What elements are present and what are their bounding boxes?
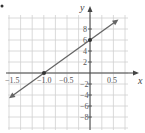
y-tick-label: −6 xyxy=(80,102,89,111)
axes xyxy=(6,6,139,130)
bullet-dot xyxy=(1,5,4,8)
y-tick-label: 8 xyxy=(83,25,87,34)
point-y-intercept xyxy=(88,38,92,42)
y-tick-label: 2 xyxy=(83,58,87,67)
y-tick-label: −2 xyxy=(80,80,89,89)
y-tick-label: −4 xyxy=(80,91,89,100)
y-axis-arrow-icon xyxy=(88,6,93,12)
y-axis-label: y xyxy=(79,2,85,13)
x-tick-label: −1.0 xyxy=(37,76,52,85)
x-tick-label: −0.5 xyxy=(59,76,74,85)
y-tick-label: −8 xyxy=(80,113,89,122)
point-x-intercept xyxy=(42,71,46,75)
line-arrow-end-icon xyxy=(112,20,119,26)
x-tick-label: 0.5 xyxy=(107,76,117,85)
x-axis-label: x xyxy=(137,75,143,86)
y-tick-label: 4 xyxy=(83,47,87,56)
graph: x y −1.5 −1.0 −0.5 0.5 8 6 4 2 −2 −4 −6 … xyxy=(0,0,145,133)
x-tick-label: −1.5 xyxy=(5,76,20,85)
